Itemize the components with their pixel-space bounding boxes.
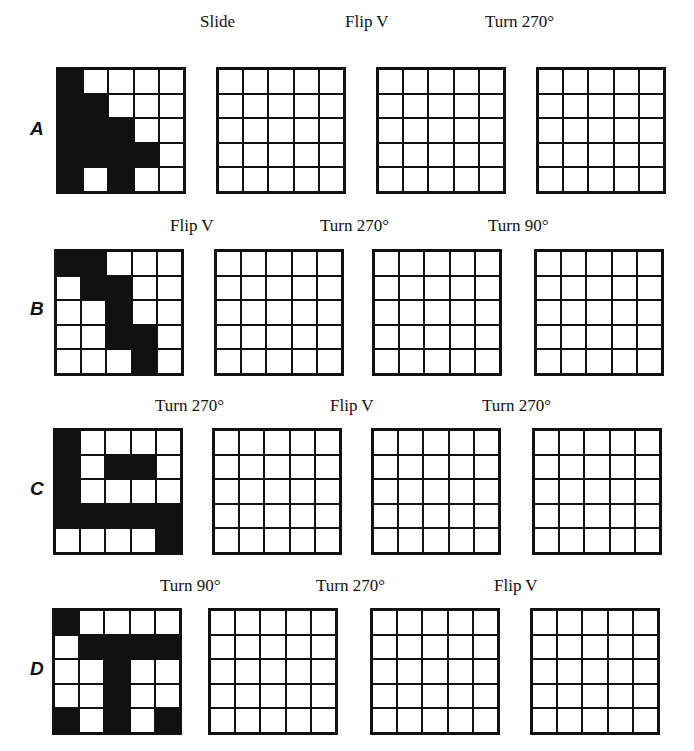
empty-cell[interactable] (217, 277, 240, 300)
empty-cell[interactable] (560, 431, 583, 454)
empty-cell[interactable] (424, 505, 447, 528)
empty-cell[interactable] (240, 529, 263, 552)
empty-cell[interactable] (636, 480, 659, 503)
empty-cell[interactable] (398, 685, 421, 708)
empty-cell[interactable] (564, 144, 587, 167)
empty-cell[interactable] (475, 431, 498, 454)
empty-cell[interactable] (424, 431, 447, 454)
empty-cell[interactable] (240, 505, 263, 528)
empty-cell[interactable] (404, 168, 427, 191)
empty-cell[interactable] (244, 144, 267, 167)
empty-cell[interactable] (429, 95, 452, 118)
empty-cell[interactable] (236, 685, 259, 708)
empty-cell[interactable] (265, 456, 288, 479)
empty-cell[interactable] (242, 326, 265, 349)
empty-cell[interactable] (613, 277, 636, 300)
empty-cell[interactable] (423, 636, 446, 659)
empty-cell[interactable] (242, 277, 265, 300)
empty-cell[interactable] (480, 144, 503, 167)
empty-cell[interactable] (535, 529, 558, 552)
empty-cell[interactable] (240, 480, 263, 503)
empty-cell[interactable] (640, 168, 663, 191)
empty-cell[interactable] (244, 119, 267, 142)
empty-cell[interactable] (373, 611, 396, 634)
empty-cell[interactable] (451, 350, 474, 373)
empty-cell[interactable] (562, 350, 585, 373)
empty-cell[interactable] (240, 431, 263, 454)
empty-cell[interactable] (539, 144, 562, 167)
empty-cell[interactable] (219, 95, 242, 118)
empty-cell[interactable] (449, 685, 472, 708)
empty-cell[interactable] (287, 611, 310, 634)
empty-cell[interactable] (312, 636, 335, 659)
empty-cell[interactable] (583, 660, 606, 683)
empty-cell[interactable] (295, 168, 318, 191)
empty-cell[interactable] (535, 431, 558, 454)
empty-cell[interactable] (634, 685, 657, 708)
empty-cell[interactable] (215, 456, 238, 479)
empty-cell[interactable] (615, 168, 638, 191)
empty-cell[interactable] (560, 480, 583, 503)
empty-cell[interactable] (312, 660, 335, 683)
empty-cell[interactable] (583, 611, 606, 634)
empty-cell[interactable] (535, 456, 558, 479)
empty-cell[interactable] (211, 660, 234, 683)
empty-cell[interactable] (316, 431, 339, 454)
empty-cell[interactable] (613, 252, 636, 275)
empty-cell[interactable] (587, 326, 610, 349)
empty-cell[interactable] (291, 456, 314, 479)
empty-cell[interactable] (634, 636, 657, 659)
empty-cell[interactable] (634, 660, 657, 683)
empty-cell[interactable] (638, 326, 661, 349)
empty-cell[interactable] (589, 119, 612, 142)
empty-cell[interactable] (425, 301, 448, 324)
empty-cell[interactable] (261, 636, 284, 659)
empty-cell[interactable] (400, 350, 423, 373)
empty-cell[interactable] (562, 277, 585, 300)
empty-cell[interactable] (451, 326, 474, 349)
empty-cell[interactable] (287, 636, 310, 659)
empty-cell[interactable] (318, 350, 341, 373)
empty-cell[interactable] (425, 326, 448, 349)
empty-cell[interactable] (638, 277, 661, 300)
empty-cell[interactable] (236, 611, 259, 634)
answer-grid[interactable] (216, 67, 346, 194)
empty-cell[interactable] (537, 326, 560, 349)
empty-cell[interactable] (611, 431, 634, 454)
empty-cell[interactable] (640, 70, 663, 93)
empty-cell[interactable] (425, 350, 448, 373)
empty-cell[interactable] (217, 326, 240, 349)
empty-cell[interactable] (244, 70, 267, 93)
empty-cell[interactable] (244, 168, 267, 191)
empty-cell[interactable] (265, 505, 288, 528)
empty-cell[interactable] (611, 456, 634, 479)
empty-cell[interactable] (609, 685, 632, 708)
empty-cell[interactable] (265, 480, 288, 503)
empty-cell[interactable] (318, 277, 341, 300)
empty-cell[interactable] (451, 301, 474, 324)
empty-cell[interactable] (423, 611, 446, 634)
empty-cell[interactable] (450, 505, 473, 528)
empty-cell[interactable] (295, 119, 318, 142)
empty-cell[interactable] (562, 301, 585, 324)
empty-cell[interactable] (583, 636, 606, 659)
empty-cell[interactable] (587, 301, 610, 324)
answer-grid[interactable] (372, 249, 502, 376)
empty-cell[interactable] (211, 685, 234, 708)
empty-cell[interactable] (242, 301, 265, 324)
empty-cell[interactable] (379, 168, 402, 191)
empty-cell[interactable] (583, 685, 606, 708)
answer-grid[interactable] (208, 608, 338, 735)
empty-cell[interactable] (261, 611, 284, 634)
empty-cell[interactable] (267, 301, 290, 324)
empty-cell[interactable] (533, 636, 556, 659)
empty-cell[interactable] (399, 505, 422, 528)
empty-cell[interactable] (583, 709, 606, 732)
empty-cell[interactable] (320, 70, 343, 93)
empty-cell[interactable] (455, 70, 478, 93)
answer-grid[interactable] (532, 428, 662, 555)
empty-cell[interactable] (450, 431, 473, 454)
empty-cell[interactable] (640, 144, 663, 167)
empty-cell[interactable] (636, 456, 659, 479)
empty-cell[interactable] (269, 144, 292, 167)
